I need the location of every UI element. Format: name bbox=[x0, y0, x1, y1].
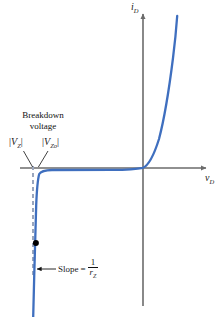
diode-characteristic-curve bbox=[33, 16, 177, 317]
zener-diode-iv-characteristic-figure: Breakdown voltage |VZ| |VZo| iD vD Slope… bbox=[0, 0, 221, 317]
y-axis-subscript: D bbox=[134, 7, 139, 14]
x-axis-subscript: D bbox=[209, 178, 214, 185]
vzo-leader-line bbox=[38, 151, 48, 167]
slope-fraction: 1 rZ bbox=[88, 258, 99, 279]
operating-point-marker bbox=[33, 240, 39, 246]
vzo-magnitude-label: |VZo| bbox=[42, 136, 59, 149]
plot-canvas bbox=[0, 0, 221, 317]
slope-numerator: 1 bbox=[88, 258, 99, 267]
slope-annotation: Slope = 1 rZ bbox=[58, 259, 98, 280]
breakdown-label-line2: voltage bbox=[30, 121, 57, 131]
breakdown-label-line1: Breakdown bbox=[22, 110, 64, 120]
vz-bar-close: | bbox=[21, 136, 23, 147]
breakdown-voltage-label: Breakdown voltage bbox=[8, 110, 78, 132]
y-axis-label: iD bbox=[131, 1, 138, 14]
vzo-bar-close: | bbox=[57, 136, 59, 147]
vzo-subscript: Zo bbox=[50, 142, 57, 149]
slope-denominator-subscript: Z bbox=[93, 273, 96, 279]
x-axis-label: vD bbox=[205, 172, 214, 185]
vz-leader-line bbox=[24, 151, 33, 167]
slope-word: Slope bbox=[58, 264, 79, 274]
slope-denominator: rZ bbox=[88, 267, 99, 279]
slope-equals-sign: = bbox=[81, 264, 86, 274]
vz-magnitude-label: |VZ| bbox=[9, 136, 23, 149]
